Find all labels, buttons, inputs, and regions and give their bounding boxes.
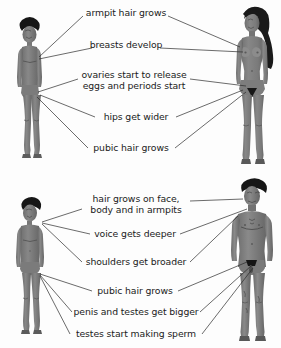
male-panel-graphics: [0, 174, 281, 348]
adult-male-figure: [231, 178, 273, 341]
female-panel-graphics: [0, 0, 281, 174]
female-puberty-panel: armpit hair grows breasts develop ovarie…: [0, 0, 281, 174]
girl-child-figure: [17, 17, 42, 158]
female-callout-lines: [37, 16, 246, 148]
male-puberty-panel: hair grows on face, body and in armpits …: [0, 174, 281, 348]
boy-child-figure: [16, 197, 44, 334]
puberty-diagram: armpit hair grows breasts develop ovarie…: [0, 0, 281, 348]
male-callout-lines: [40, 199, 253, 334]
